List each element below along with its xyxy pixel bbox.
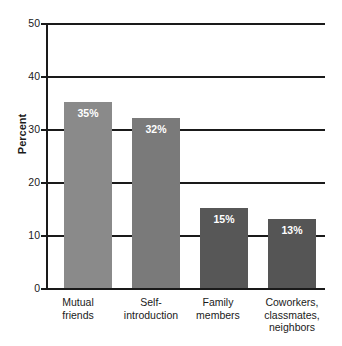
y-tick-mark-20 — [41, 182, 46, 184]
category-line: classmates, — [246, 309, 338, 322]
bar-value-label-4: 13% — [268, 224, 316, 236]
bar-mutual-friends[interactable]: 35% — [64, 102, 112, 288]
bar-coworkers-classmates-neighbors[interactable]: 13% — [268, 219, 316, 288]
y-tick-label-40: 40 — [6, 71, 40, 81]
y-tick-label-30: 30 — [6, 124, 40, 134]
x-axis-line — [46, 288, 325, 290]
y-tick-mark-50 — [41, 23, 46, 25]
bar-family-members[interactable]: 15% — [200, 208, 248, 288]
category-line: Coworkers, — [246, 296, 338, 309]
y-tick-mark-30 — [41, 129, 46, 131]
y-tick-mark-0 — [41, 288, 46, 290]
y-tick-label-10: 10 — [6, 230, 40, 240]
bar-value-label-1: 35% — [64, 107, 112, 119]
y-tick-mark-40 — [41, 76, 46, 78]
plot-area: 35% 32% 15% 13% — [46, 23, 325, 290]
y-tick-label-50: 50 — [6, 18, 40, 28]
bar-value-label-2: 32% — [132, 123, 180, 135]
gridline-50 — [46, 23, 325, 25]
x-category-label-coworkers: Coworkers, classmates, neighbors — [246, 296, 338, 334]
bar-chart: Percent 50 40 30 20 10 0 35% 32% 15% — [0, 0, 342, 346]
category-line: neighbors — [246, 321, 338, 334]
y-axis-tick-labels: 50 40 30 20 10 0 — [0, 23, 40, 290]
bar-value-label-3: 15% — [200, 213, 248, 225]
y-tick-mark-10 — [41, 235, 46, 237]
y-axis-line — [46, 23, 48, 290]
y-tick-label-20: 20 — [6, 177, 40, 187]
bar-self-introduction[interactable]: 32% — [132, 118, 180, 288]
y-tick-label-0: 0 — [6, 283, 40, 293]
gridline-40 — [46, 76, 325, 78]
